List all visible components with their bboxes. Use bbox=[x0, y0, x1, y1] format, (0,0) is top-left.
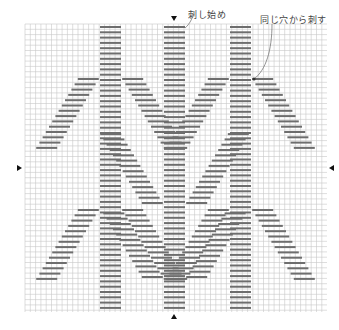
center-marker-right-icon bbox=[329, 165, 334, 171]
right-column-stitch bbox=[230, 116, 251, 118]
diagonal-stitch bbox=[205, 244, 226, 246]
center-column-stitch bbox=[164, 275, 185, 277]
diagonal-stitch bbox=[107, 218, 128, 220]
diagonal-stitch bbox=[110, 223, 131, 225]
left-column-stitch bbox=[100, 68, 121, 70]
right-column-stitch bbox=[230, 63, 251, 65]
right-column-stitch bbox=[230, 185, 251, 187]
right-column-stitch bbox=[230, 159, 251, 161]
right-column-stitch bbox=[230, 196, 251, 198]
diagonal-stitch bbox=[107, 144, 128, 146]
right-column-stitch bbox=[230, 121, 251, 123]
center-column-stitch bbox=[164, 307, 185, 309]
diagonal-stitch bbox=[209, 239, 230, 241]
diagonal-stitch bbox=[169, 142, 190, 144]
diagonal-stitch bbox=[132, 225, 153, 227]
diagonal-stitch bbox=[259, 220, 280, 222]
diagonal-stitch bbox=[179, 257, 200, 259]
center-column-stitch bbox=[164, 227, 185, 229]
right-column-stitch bbox=[230, 280, 251, 282]
right-column-stitch bbox=[230, 68, 251, 70]
center-column-stitch bbox=[164, 296, 185, 298]
diagonal-stitch bbox=[189, 197, 210, 199]
diagonal-stitch bbox=[123, 244, 144, 246]
left-column-stitch bbox=[100, 201, 121, 203]
diagonal-stitch bbox=[71, 89, 92, 91]
diagonal-stitch bbox=[262, 94, 283, 96]
diagonal-stitch bbox=[46, 262, 67, 264]
diagonal-stitch bbox=[185, 246, 206, 248]
diagonal-stitch bbox=[135, 230, 156, 232]
center-column-stitch bbox=[164, 185, 185, 187]
left-column-stitch bbox=[100, 291, 121, 293]
stitch-diagram: 刺し始め 同じ穴から刺す bbox=[0, 0, 339, 330]
right-column-stitch bbox=[230, 174, 251, 176]
left-column-stitch bbox=[100, 169, 121, 171]
diagonal-stitch bbox=[271, 241, 292, 243]
center-column-stitch bbox=[164, 254, 185, 256]
left-column-stitch bbox=[100, 238, 121, 240]
left-column-stitch bbox=[100, 190, 121, 192]
diagonal-stitch bbox=[126, 250, 147, 252]
diagonal-stitch bbox=[196, 260, 217, 262]
diagonal-stitch bbox=[135, 265, 156, 267]
right-column-stitch bbox=[230, 206, 251, 208]
left-column-stitch bbox=[100, 121, 121, 123]
diagonal-stitch bbox=[49, 126, 70, 128]
left-column-stitch bbox=[100, 74, 121, 76]
left-column-stitch bbox=[100, 26, 121, 28]
diagonal-stitch bbox=[189, 110, 210, 112]
right-column-stitch bbox=[230, 74, 251, 76]
center-column-stitch bbox=[164, 217, 185, 219]
diagonal-stitch bbox=[259, 89, 280, 91]
right-column-stitch bbox=[230, 53, 251, 55]
diagonal-stitch bbox=[43, 267, 64, 269]
diagonal-stitch bbox=[135, 99, 156, 101]
diagonal-stitch bbox=[52, 251, 73, 253]
diagonal-stitch bbox=[132, 94, 153, 96]
diagonal-stitch bbox=[208, 78, 229, 80]
diagonal-stitch bbox=[141, 110, 162, 112]
left-column-stitch bbox=[100, 90, 121, 92]
diagonal-stitch bbox=[186, 276, 207, 278]
center-column-stitch bbox=[164, 68, 185, 70]
right-column-stitch bbox=[230, 169, 251, 171]
diagonal-stitch bbox=[100, 133, 121, 135]
center-column-stitch bbox=[164, 270, 185, 272]
center-column-stitch bbox=[164, 243, 185, 245]
diagonal-stitch bbox=[255, 83, 276, 85]
diagonal-stitch bbox=[287, 267, 308, 269]
diagonal-stitch bbox=[169, 273, 190, 275]
diagonal-stitch bbox=[119, 165, 140, 167]
diagonal-stitch bbox=[201, 220, 222, 222]
right-column-stitch bbox=[230, 265, 251, 267]
diagonal-stitch bbox=[55, 246, 76, 248]
diagonal-stitch bbox=[68, 94, 89, 96]
diagonal-stitch bbox=[218, 223, 239, 225]
left-column-stitch bbox=[100, 127, 121, 129]
diagonal-stitch bbox=[205, 214, 226, 216]
diagonal-stitch bbox=[278, 120, 299, 122]
center-marker-top-icon bbox=[171, 16, 177, 21]
diagonal-stitch bbox=[205, 83, 226, 85]
center-column-stitch bbox=[164, 286, 185, 288]
center-column-stitch bbox=[164, 63, 185, 65]
center-column-stitch bbox=[164, 53, 185, 55]
diagonal-stitch bbox=[119, 239, 140, 241]
diagonal-stitch bbox=[212, 234, 233, 236]
diagonal-stitch bbox=[126, 176, 147, 178]
diagonal-stitch bbox=[132, 260, 153, 262]
diagonal-stitch bbox=[198, 225, 219, 227]
diagonal-stitch bbox=[215, 228, 236, 230]
left-column-stitch bbox=[100, 79, 121, 81]
center-column-stitch bbox=[164, 58, 185, 60]
left-column-stitch bbox=[100, 185, 121, 187]
diagonal-stitch bbox=[275, 115, 296, 117]
right-column-stitch bbox=[230, 238, 251, 240]
center-column-stitch bbox=[164, 153, 185, 155]
diagonal-stitch bbox=[189, 241, 210, 243]
diagonal-stitch bbox=[62, 105, 83, 107]
right-column-stitch bbox=[230, 47, 251, 49]
left-column-stitch bbox=[100, 63, 121, 65]
diagonal-stitch bbox=[192, 105, 213, 107]
